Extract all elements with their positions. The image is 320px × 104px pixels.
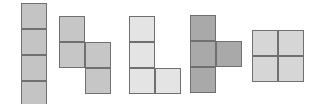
- tetromino-cell: [21, 29, 47, 55]
- tetromino-cell: [129, 42, 155, 68]
- tetromino-cell: [278, 30, 304, 56]
- tetromino-cell: [190, 15, 216, 41]
- tetromino-cell: [21, 55, 47, 81]
- tetromino-cell: [155, 68, 181, 94]
- tetromino-cell: [190, 41, 216, 67]
- tetromino-cell: [59, 42, 85, 68]
- tetromino-cell: [21, 3, 47, 29]
- tetromino-cell: [190, 67, 216, 93]
- tetromino-cell: [85, 68, 111, 94]
- tetromino-cell: [129, 68, 155, 94]
- tetromino-cell: [129, 16, 155, 42]
- tetromino-cell: [252, 30, 278, 56]
- tetromino-cell: [59, 16, 85, 42]
- tetromino-cell: [216, 41, 242, 67]
- tetromino-cell: [21, 81, 47, 104]
- tetromino-cell: [252, 56, 278, 82]
- tetromino-cell: [278, 56, 304, 82]
- tetromino-cell: [85, 42, 111, 68]
